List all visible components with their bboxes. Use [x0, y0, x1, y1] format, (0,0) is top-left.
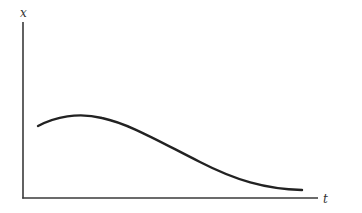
line-chart: x t	[0, 0, 362, 213]
x-axis-label: t	[323, 192, 328, 206]
data-curve	[38, 115, 302, 190]
y-axis-label: x	[20, 6, 27, 20]
